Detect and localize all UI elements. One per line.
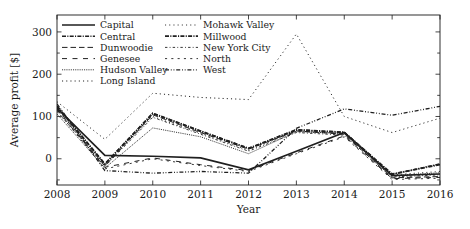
x-tick-label: 2008 (44, 188, 71, 200)
legend-label-capital: Capital (100, 19, 134, 30)
x-tick-label: 2012 (235, 188, 262, 200)
line-chart: 0100200300200820092010201120122013201420… (0, 0, 470, 229)
x-tick-label: 2010 (139, 188, 166, 200)
legend-label-genesee: Genesee (100, 53, 141, 64)
series-line-west (57, 104, 440, 173)
legend-label-hudson-valley: Hudson Valley (100, 64, 168, 75)
x-axis-label: Year (236, 203, 261, 215)
x-tick-label: 2009 (92, 188, 119, 200)
x-tick-label: 2013 (283, 188, 310, 200)
y-tick-label: 300 (32, 26, 52, 38)
series-line-millwood (57, 106, 440, 174)
legend-label-dunwoodie: Dunwoodie (100, 42, 154, 53)
legend-label-north: North (203, 53, 231, 64)
x-tick-label: 2015 (379, 188, 406, 200)
legend-label-new-york-city: New York City (203, 42, 271, 53)
legend-label-mohawk-valley: Mohawk Valley (203, 19, 275, 30)
legend-label-long-island: Long Island (100, 75, 156, 86)
x-tick-label: 2014 (331, 188, 358, 200)
legend-label-millwood: Millwood (203, 31, 247, 42)
x-tick-label: 2011 (187, 188, 214, 200)
y-tick-label: 0 (45, 152, 52, 164)
legend-label-west: West (203, 64, 226, 75)
y-axis-label: Average profit [$] (8, 53, 20, 148)
series-line-central (57, 106, 440, 175)
y-tick-label: 100 (32, 110, 52, 122)
legend: CapitalCentralDunwoodieGeneseeHudson Val… (62, 19, 275, 86)
legend-label-central: Central (100, 31, 135, 42)
x-tick-label: 2016 (427, 188, 454, 200)
chart-figure: 0100200300200820092010201120122013201420… (0, 0, 470, 229)
y-tick-label: 200 (32, 68, 52, 80)
